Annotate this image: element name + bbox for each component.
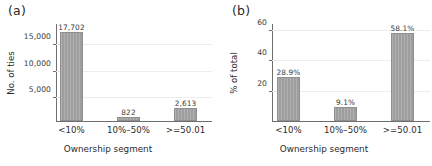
panel-a-bar-1[interactable]: 822 10%–50% <box>117 117 140 121</box>
panel-b-bar-value-0: 28.9% <box>277 68 301 77</box>
panel-a-x-axis-title: Ownership segment <box>0 144 216 154</box>
panel-a-letter: (a) <box>8 3 26 18</box>
panel-b-x-axis-line <box>272 121 430 122</box>
panel-b-y-axis-title: % of total <box>229 45 239 101</box>
panel-b-category-label-0: <10% <box>275 125 302 135</box>
figure-root: (a) No. of ties Ownership segment 5,000 … <box>0 0 432 166</box>
panel-b-y-axis-line <box>272 24 273 122</box>
panel-a-bar-value-1: 822 <box>121 108 135 117</box>
panel-b-category-label-1: 10%–50% <box>324 125 367 135</box>
panel-a-bar-value-2: 2,613 <box>175 99 197 108</box>
panel-b-x-axis-title: Ownership segment <box>216 144 432 154</box>
panel-b: (b) % of total Ownership segment 20 40 6… <box>216 0 432 166</box>
panel-a-tick-mark <box>53 71 56 72</box>
panel-b-bar-1[interactable]: 9.1% 10%–50% <box>334 107 357 121</box>
panel-a-category-label-2: >=50.01 <box>166 125 206 135</box>
panel-b-tick-mark <box>269 60 272 61</box>
panel-a-tick-mark <box>53 97 56 98</box>
panel-a-bar-0[interactable]: 17,702 <10% <box>60 32 83 121</box>
panel-a-category-label-1: 10%–50% <box>107 125 150 135</box>
panel-a-bar-2[interactable]: 2,613 >=50.01 <box>174 108 197 121</box>
panel-b-category-label-2: >=50.01 <box>383 125 423 135</box>
panel-a-ytick-label-2: 15,000 <box>24 32 51 41</box>
panel-b-ytick-label-1: 40 <box>257 48 267 57</box>
panel-a-category-label-0: <10% <box>58 125 85 135</box>
panel-b-ytick-label-2: 60 <box>257 18 267 27</box>
panel-a-x-axis-line <box>56 121 212 122</box>
panel-b-tick-mark <box>269 30 272 31</box>
panel-b-tick-mark <box>269 91 272 92</box>
panel-a-y-axis-title: No. of ties <box>6 45 16 101</box>
panel-a-plot-area: 5,000 10,000 15,000 17,702 <10% 822 10%–… <box>56 28 210 122</box>
panel-b-bar-value-2: 58.1% <box>391 24 415 33</box>
panel-a-ytick-label-1: 10,000 <box>24 59 51 68</box>
panel-a-bar-value-0: 17,702 <box>58 23 84 32</box>
panel-b-bar-value-1: 9.1% <box>336 98 355 107</box>
panel-b-letter: (b) <box>232 3 250 18</box>
panel-a-y-axis-line <box>56 24 57 122</box>
panel-b-ytick-label-0: 20 <box>257 78 267 87</box>
panel-b-bar-2[interactable]: 58.1% >=50.01 <box>391 33 414 121</box>
panel-b-bar-0[interactable]: 28.9% <10% <box>277 77 300 121</box>
panel-a-tick-mark <box>53 44 56 45</box>
panel-b-plot-area: 20 40 60 28.9% <10% 9.1% 10%–50% 58.1% >… <box>272 28 428 122</box>
panel-a: (a) No. of ties Ownership segment 5,000 … <box>0 0 216 166</box>
panel-a-ytick-label-0: 5,000 <box>29 85 51 94</box>
